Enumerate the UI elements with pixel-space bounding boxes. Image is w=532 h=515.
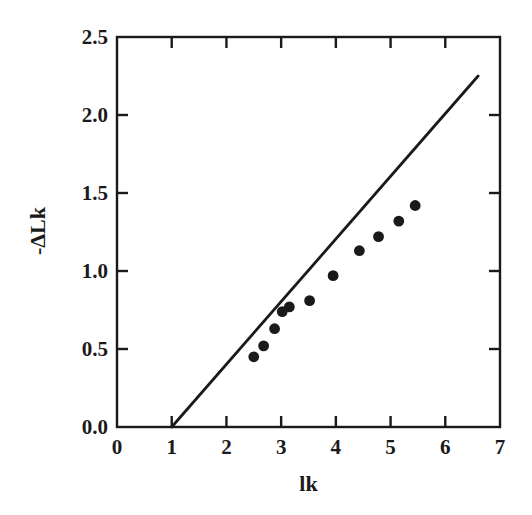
x-tick-label: 5 (385, 435, 396, 460)
data-point (284, 301, 295, 312)
axis-ticks (117, 37, 500, 427)
reference-line (172, 76, 478, 427)
data-point (393, 216, 404, 227)
plot-area (0, 0, 532, 515)
y-axis-title: -ΔLk (25, 201, 51, 261)
data-point (354, 245, 365, 256)
y-tick-label: 1.0 (82, 259, 108, 284)
data-points (248, 200, 420, 362)
data-point (373, 231, 384, 242)
chart-figure: 0.00.51.01.52.02.5 01234567 -ΔLk lk (0, 0, 532, 515)
x-tick-label: 4 (331, 435, 342, 460)
data-point (248, 351, 259, 362)
y-tick-label: 2.0 (82, 103, 108, 128)
x-axis-title: lk (269, 471, 349, 497)
x-tick-label: 6 (440, 435, 451, 460)
series-line-1 (172, 76, 478, 427)
data-point (328, 270, 339, 281)
x-tick-label: 7 (495, 435, 506, 460)
x-tick-label: 2 (221, 435, 232, 460)
y-tick-label: 2.5 (82, 25, 108, 50)
y-tick-label: 0.0 (82, 415, 108, 440)
axes-frame (117, 37, 500, 427)
x-tick-label: 3 (276, 435, 287, 460)
y-tick-label: 0.5 (82, 337, 108, 362)
data-point (269, 323, 280, 334)
data-point (258, 340, 269, 351)
data-point (410, 200, 421, 211)
x-tick-label: 0 (112, 435, 123, 460)
x-tick-label: 1 (166, 435, 177, 460)
data-point (304, 295, 315, 306)
y-tick-label: 1.5 (82, 181, 108, 206)
